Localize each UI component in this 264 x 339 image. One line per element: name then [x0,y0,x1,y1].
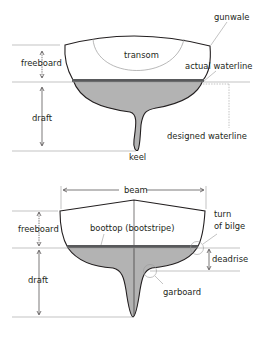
boottop-stripe [67,245,198,248]
label-draft-top: draft [32,113,53,123]
label-transom: transom [124,50,159,60]
label-keel: keel [129,152,146,162]
label-actual-waterline: actual waterline [185,61,252,71]
top-waterline-stripe [72,79,204,82]
label-gunwale: gunwale [214,12,249,22]
label-boottop: boottop (bootstripe) [90,223,175,233]
label-freeboard-top: freeboard [21,58,62,68]
label-garboard: garboard [163,287,201,297]
label-freeboard-bottom: freeboard [18,224,59,234]
bottom-hull-diagram: beam turn of bilge freeboard boottop (bo… [12,185,248,317]
top-hull-diagram: gunwale transom freeboard actual waterli… [12,12,252,162]
hull-diagram: gunwale transom freeboard actual waterli… [0,0,264,339]
label-of-bilge: of bilge [214,221,245,231]
label-beam: beam [124,185,148,195]
label-draft-bottom: draft [28,275,49,285]
bottom-underwater-body [68,248,197,317]
label-deadrise: deadrise [212,254,248,264]
label-turn: turn [214,209,231,219]
label-designed-waterline: designed waterline [167,131,247,141]
